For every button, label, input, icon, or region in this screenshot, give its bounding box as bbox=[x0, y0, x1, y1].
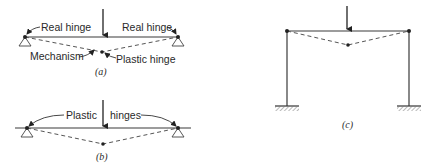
plastic-hinge-diagram: Real hinge Real hinge Mechanism Plastic … bbox=[0, 0, 437, 167]
plastic-hinge-a bbox=[100, 50, 104, 54]
leader-plastic-hinge bbox=[105, 53, 116, 58]
figure-a: Real hinge Real hinge Mechanism Plastic … bbox=[19, 9, 184, 78]
mechanism-line-c bbox=[287, 31, 409, 45]
label-real-hinge-right: Real hinge bbox=[122, 21, 172, 33]
fixed-support-icon bbox=[397, 106, 421, 111]
plastic-hinge-right-b bbox=[176, 126, 180, 130]
label-plastic: Plastic bbox=[66, 109, 97, 121]
caption-c: (c) bbox=[342, 119, 354, 131]
leader-hinges-right bbox=[141, 115, 176, 126]
plastic-hinge-right-c bbox=[407, 29, 411, 33]
fixed-support-icon bbox=[275, 106, 299, 111]
label-mechanism: Mechanism bbox=[30, 50, 84, 62]
real-hinge-right bbox=[176, 35, 180, 39]
caption-a: (a) bbox=[95, 66, 107, 78]
label-real-hinge-left: Real hinge bbox=[41, 21, 91, 33]
figure-b: Plastic hinges (b) bbox=[15, 100, 191, 163]
figure-c: (c) bbox=[275, 6, 421, 131]
label-hinges: hinges bbox=[110, 109, 141, 121]
plastic-hinge-mid-b bbox=[101, 142, 105, 146]
plastic-hinge-left-c bbox=[285, 29, 289, 33]
plastic-hinge-left-b bbox=[25, 126, 29, 130]
mechanism-line-b bbox=[27, 128, 178, 144]
real-hinge-left bbox=[23, 35, 27, 39]
leader-real-hinge-left bbox=[27, 27, 40, 34]
caption-b: (b) bbox=[96, 151, 108, 163]
leader-plastic-left bbox=[29, 115, 64, 126]
plastic-hinge-mid-c bbox=[346, 43, 350, 47]
label-plastic-hinge: Plastic hinge bbox=[116, 53, 176, 65]
